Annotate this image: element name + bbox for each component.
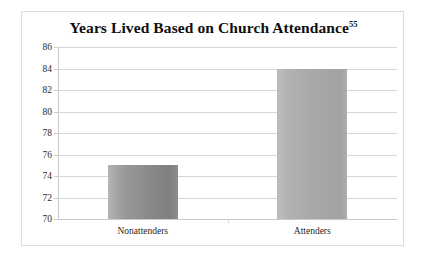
x-axis-label-attenders: Attenders [228,226,398,236]
y-tick-label: 76 [24,150,52,160]
y-tick-mark [54,69,58,70]
chart-figure: Years Lived Based on Church Attendance55… [21,11,404,246]
y-tick-label: 84 [24,64,52,74]
y-tick-label: 72 [24,193,52,203]
y-tick-row: 74 [22,171,52,181]
plot-area [58,47,397,219]
y-tick-row: 84 [22,64,52,74]
x-axis-label-nonattenders: Nonattenders [58,226,228,236]
bar-attenders[interactable] [277,69,347,220]
y-tick-row: 76 [22,150,52,160]
y-tick-mark [54,219,58,220]
y-tick-row: 72 [22,193,52,203]
gridline [58,47,397,48]
x-tick-mark [228,219,229,223]
y-tick-label: 70 [24,214,52,224]
plot-wrapper: 868482807876747270 NonattendersAttenders [22,12,405,247]
y-tick-label: 80 [24,107,52,117]
y-tick-label: 86 [24,42,52,52]
y-tick-mark [54,47,58,48]
y-tick-row: 70 [22,214,52,224]
y-tick-label: 74 [24,171,52,181]
bar-nonattenders[interactable] [108,165,178,219]
y-tick-mark [54,176,58,177]
y-tick-mark [54,133,58,134]
y-tick-mark [54,90,58,91]
y-tick-label: 82 [24,85,52,95]
y-tick-row: 82 [22,85,52,95]
y-tick-row: 86 [22,42,52,52]
y-tick-mark [54,198,58,199]
y-tick-row: 78 [22,128,52,138]
y-tick-row: 80 [22,107,52,117]
y-tick-label: 78 [24,128,52,138]
y-tick-mark [54,155,58,156]
y-tick-mark [54,112,58,113]
